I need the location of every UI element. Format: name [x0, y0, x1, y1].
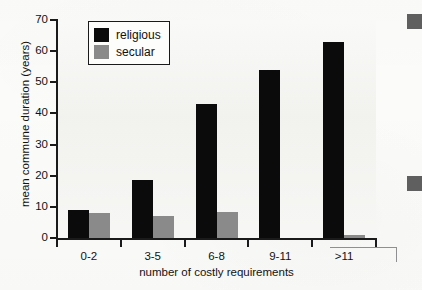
bar-religious-6-8 [196, 104, 217, 238]
legend-item-secular: secular [94, 43, 161, 60]
page-edge-fragment-top [407, 14, 422, 29]
bar-religious->11 [323, 42, 344, 238]
x-axis-tick [56, 240, 58, 247]
legend-item-religious: religious [94, 26, 161, 43]
x-axis-tick [311, 240, 313, 247]
y-axis-tick [50, 50, 57, 52]
legend-swatch-secular-icon [94, 45, 109, 59]
y-axis-tick [50, 206, 57, 208]
y-axis-tick [50, 237, 57, 239]
y-axis-tick [50, 19, 57, 21]
bar-religious-3-5 [132, 180, 153, 238]
x-axis-tick-label-3-5: 3-5 [123, 251, 183, 263]
y-axis-tick [50, 81, 57, 83]
y-axis-tick [50, 175, 57, 177]
y-axis-tick [50, 144, 57, 146]
x-axis-tick [375, 240, 377, 247]
legend-label-religious: religious [116, 29, 161, 41]
y-axis-title: mean commune duration (years) [19, 19, 31, 229]
legend-label-secular: secular [116, 46, 155, 58]
page-edge-fragment-bottom [407, 176, 422, 191]
bar-secular-3-5 [153, 216, 174, 238]
x-axis-tick [120, 240, 122, 247]
bar-chart-figure: 010203040506070 0-23-56-89-11>11 number … [0, 0, 422, 290]
bar-religious-0-2 [68, 210, 89, 238]
bar-secular-6-8 [217, 212, 238, 238]
x-axis-tick-label-9-11: 9-11 [250, 251, 310, 263]
x-axis-tick [184, 240, 186, 247]
bar-religious-9-11 [259, 70, 280, 238]
bar-secular-0-2 [89, 213, 110, 238]
x-axis-tick [247, 240, 249, 247]
x-axis-tick-label->11: >11 [314, 251, 374, 263]
y-axis-tick [50, 112, 57, 114]
x-axis-title: number of costly requirements [57, 266, 376, 278]
page-corner-line-horizontal [330, 247, 397, 248]
x-axis-tick-label-6-8: 6-8 [187, 251, 247, 263]
page-corner-line-vertical [396, 248, 397, 262]
chart-legend: religious secular [88, 21, 170, 65]
x-axis-line [56, 238, 377, 240]
x-axis-tick-label-0-2: 0-2 [59, 251, 119, 263]
legend-swatch-religious-icon [94, 28, 109, 42]
y-axis-tick-label: 0 [6, 232, 48, 244]
